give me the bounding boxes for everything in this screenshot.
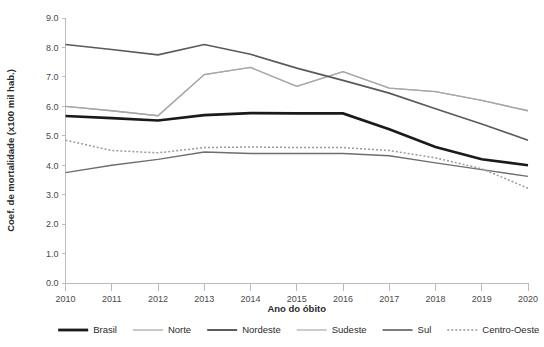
x-tick-label: 2019 xyxy=(472,294,492,304)
y-tick-label: 3.0 xyxy=(46,190,59,200)
y-tick-label: 6.0 xyxy=(46,102,59,112)
series-group xyxy=(66,45,529,189)
legend-label-sudeste: Sudeste xyxy=(332,324,367,335)
series-line-sul xyxy=(66,45,529,141)
x-axis-title: Ano do óbito xyxy=(267,303,326,314)
legend-label-sul: Sul xyxy=(418,324,432,335)
series-line-norte xyxy=(66,67,529,115)
y-tick-label: 2.0 xyxy=(46,219,59,229)
line-chart: 0.01.02.03.04.05.06.07.08.09.02010201120… xyxy=(0,0,544,347)
legend-label-norte: Norte xyxy=(168,324,191,335)
legend-label-brasil: Brasil xyxy=(93,324,117,335)
legend-item-sudeste[interactable]: Sudeste xyxy=(297,324,367,335)
legend-label-nordeste: Nordeste xyxy=(242,324,281,335)
series-line-nordeste xyxy=(66,152,529,176)
x-tick-label: 2011 xyxy=(102,294,121,304)
legend: BrasilNorteNordesteSudesteSulCentro-Oest… xyxy=(58,324,539,335)
y-tick-label: 1.0 xyxy=(46,249,59,259)
chart-container: 0.01.02.03.04.05.06.07.08.09.02010201120… xyxy=(0,0,544,347)
legend-item-norte[interactable]: Norte xyxy=(133,324,191,335)
y-axis-title: Coef. de mortalidade (x100 mil hab.) xyxy=(5,69,16,232)
x-tick-label: 2013 xyxy=(194,294,214,304)
x-tick-label: 2016 xyxy=(333,294,353,304)
y-tick-label: 8.0 xyxy=(46,43,59,53)
y-tick-label: 7.0 xyxy=(46,72,59,82)
y-tick-label: 9.0 xyxy=(46,13,59,23)
x-axis: 2010201120122013201420152016201720182019… xyxy=(55,283,538,304)
x-tick-label: 2014 xyxy=(240,294,260,304)
x-tick-label: 2012 xyxy=(148,294,168,304)
legend-label-centro-oeste: Centro-Oeste xyxy=(482,324,539,335)
y-tick-label: 0.0 xyxy=(46,278,59,288)
series-line-sudeste xyxy=(66,67,529,115)
y-tick-label: 4.0 xyxy=(46,161,59,171)
y-axis: 0.01.02.03.04.05.06.07.08.09.0 xyxy=(46,13,66,288)
x-tick-label: 2020 xyxy=(518,294,538,304)
legend-item-sul[interactable]: Sul xyxy=(383,324,432,335)
x-tick-label: 2017 xyxy=(379,294,399,304)
series-line-brasil xyxy=(66,113,529,165)
x-tick-label: 2018 xyxy=(425,294,445,304)
legend-item-nordeste[interactable]: Nordeste xyxy=(207,324,281,335)
series-line-centro-oeste xyxy=(66,140,529,188)
y-tick-label: 5.0 xyxy=(46,131,59,141)
x-tick-label: 2010 xyxy=(55,294,75,304)
legend-item-brasil[interactable]: Brasil xyxy=(58,324,117,335)
legend-item-centro-oeste[interactable]: Centro-Oeste xyxy=(447,324,539,335)
